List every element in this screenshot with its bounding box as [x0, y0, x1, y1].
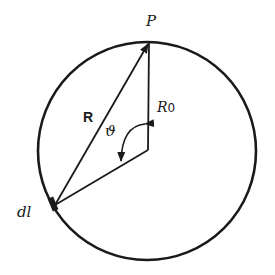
vector-r-label: R	[83, 110, 93, 124]
radius-to-dl-line	[55, 150, 148, 205]
vector-r-arrow	[55, 44, 148, 205]
diagram-svg	[0, 0, 275, 275]
angle-theta-label: ϑ	[105, 124, 116, 139]
radius-r0-letter: R	[157, 99, 168, 115]
angle-theta-arc	[121, 124, 145, 161]
radius-r0-label: R0	[157, 100, 175, 114]
element-dl-label: dl	[17, 205, 31, 220]
diagram-canvas: P R R0 ϑ dl	[0, 0, 275, 275]
point-p-label: P	[146, 14, 156, 29]
radius-r0-subscript: 0	[168, 101, 176, 115]
radius-r0-line	[148, 42, 149, 150]
